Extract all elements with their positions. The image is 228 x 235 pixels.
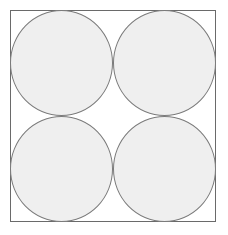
circle-top-left: [10, 10, 113, 116]
circle-bottom-right: [113, 116, 216, 222]
circle-bottom-left: [10, 116, 113, 222]
circle-top-right: [113, 10, 216, 116]
